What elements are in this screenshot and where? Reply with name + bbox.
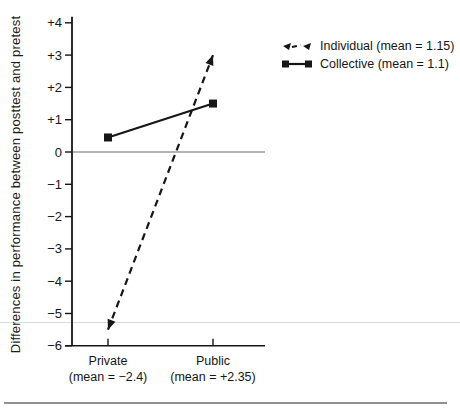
x-category-sublabel: (mean = +2.35) [170, 370, 255, 384]
y-tick-label: 0 [55, 145, 62, 160]
y-tick-label: −3 [47, 241, 62, 256]
y-tick-label: +1 [47, 112, 62, 127]
triangle-dashed-marker-icon [281, 40, 313, 52]
legend: Individual (mean = 1.15) Collective (mea… [281, 39, 454, 71]
triangle-marker-individual [206, 55, 214, 66]
legend-label-collective: Collective (mean = 1.1) [320, 57, 449, 71]
y-tick-label: +2 [47, 80, 62, 95]
legend-item-collective: Collective (mean = 1.1) [281, 57, 454, 71]
series-line-individual [108, 55, 213, 330]
square-marker-collective [104, 133, 112, 141]
y-tick-label: +3 [47, 48, 62, 63]
square-solid-marker-icon [281, 58, 313, 70]
page-rule [4, 402, 447, 404]
legend-label-individual: Individual (mean = 1.15) [320, 39, 454, 53]
x-category-label: Private [89, 354, 128, 368]
x-category-label: Public [196, 354, 230, 368]
y-tick-label: +4 [47, 15, 62, 30]
y-axis-title: Differences in performance between postt… [8, 5, 23, 365]
triangle-marker-individual [108, 319, 116, 330]
square-marker-collective [209, 100, 217, 108]
y-tick-label: −4 [47, 274, 62, 289]
legend-item-individual: Individual (mean = 1.15) [281, 39, 454, 53]
figure-plot: +4+3+2+10−1−2−3−4−5−6Private(mean = −2.4… [0, 0, 460, 410]
y-tick-label: −6 [47, 338, 62, 353]
y-tick-label: −5 [47, 306, 62, 321]
y-tick-label: −2 [47, 209, 62, 224]
y-tick-label: −1 [47, 177, 62, 192]
x-category-sublabel: (mean = −2.4) [69, 370, 148, 384]
series-line-collective [108, 104, 213, 138]
